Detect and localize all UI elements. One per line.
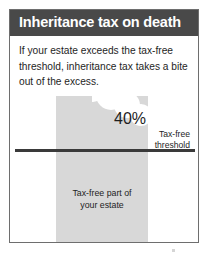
estate-tax-chart: 40% Tax-free threshold Tax-free part of …	[10, 36, 198, 243]
tax-rate-label: 40%	[114, 110, 146, 128]
infographic-card: Inheritance tax on death If your estate …	[9, 9, 199, 243]
threshold-label-line1: Tax-free	[120, 129, 190, 140]
tax-free-part-line2: your estate	[56, 200, 148, 212]
threshold-label: Tax-free threshold	[120, 129, 190, 151]
tax-free-part-label: Tax-free part of your estate	[56, 188, 148, 211]
threshold-label-line2: threshold	[120, 140, 190, 151]
card-header: Inheritance tax on death	[10, 10, 198, 36]
tax-free-part-line1: Tax-free part of	[56, 188, 148, 200]
page-artifact-mark	[172, 249, 175, 252]
page-title: Inheritance tax on death	[19, 14, 181, 30]
